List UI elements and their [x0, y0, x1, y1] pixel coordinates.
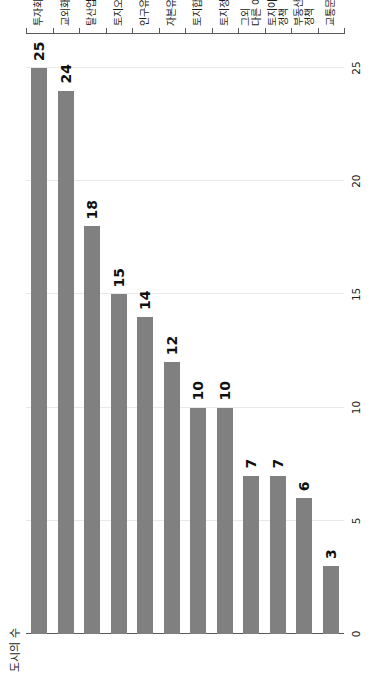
category-tick [185, 28, 186, 34]
category-label: 그외다른 이유 [240, 0, 262, 26]
bar-value-label: 14 [137, 291, 153, 310]
category-label: 토지합병 [193, 0, 204, 26]
value-tick-label: 15 [350, 288, 362, 301]
bar [190, 408, 206, 634]
value-tick-label: 25 [350, 61, 362, 74]
bar-row: 18 [84, 34, 100, 634]
category-label-line: 토지이용 [267, 0, 278, 26]
category-tick [265, 28, 266, 34]
bar-row: 7 [270, 34, 286, 634]
category-label-line: 다른 이유 [251, 0, 262, 26]
bar-row: 14 [137, 34, 153, 634]
value-axis: 0510152025 [344, 34, 374, 634]
category-tick [344, 28, 345, 34]
value-tick-label: 10 [350, 401, 362, 414]
bar-row: 3 [323, 34, 339, 634]
value-tick-label: 0 [350, 631, 362, 638]
category-tick [212, 28, 213, 34]
bar-row: 25 [31, 34, 47, 634]
category-label: 투자회수 [34, 0, 45, 26]
bar [58, 91, 74, 634]
bar-value-label: 6 [296, 481, 312, 491]
bar-row: 7 [243, 34, 259, 634]
category-label-line: 자본유입 [166, 0, 177, 26]
category-tick [318, 28, 319, 34]
bar-value-label: 10 [190, 381, 206, 400]
bar-value-label: 24 [58, 64, 74, 83]
bar [296, 498, 312, 634]
bar-value-label: 7 [270, 459, 286, 469]
bar-row: 15 [111, 34, 127, 634]
bar [270, 476, 286, 634]
bar-row: 6 [296, 34, 312, 634]
category-label: 토지이용정책 [267, 0, 289, 26]
category-label: 토지정형화 [219, 0, 230, 26]
value-axis-title: 도시의 수 [6, 628, 22, 673]
category-label: 탈산업화 [87, 0, 98, 26]
bar [243, 476, 259, 634]
category-tick [132, 28, 133, 34]
category-label-line: 토지합병 [193, 0, 204, 26]
bar-value-label: 18 [84, 200, 100, 219]
bar-value-label: 25 [31, 41, 47, 60]
bar-value-label: 12 [164, 336, 180, 355]
category-label-line: 토지정형화 [219, 0, 230, 26]
bar-value-label: 3 [323, 549, 339, 559]
category-tick [106, 28, 107, 34]
bar-row: 10 [190, 34, 206, 634]
category-label: 자본유입 [166, 0, 177, 26]
category-label: 인구유출 [140, 0, 151, 26]
plot-area: 25241815141210107763 [26, 34, 344, 634]
bar-row: 12 [164, 34, 180, 634]
category-label-line: 교외화 [60, 0, 71, 26]
category-label: 토지오염 [113, 0, 124, 26]
bar [217, 408, 233, 634]
category-label-line: 그외 [240, 8, 251, 26]
bar-chart-figure: 도시의 수 25241815141210107763 0510152025 투자… [0, 0, 386, 680]
category-tick [291, 28, 292, 34]
bar [164, 362, 180, 634]
category-label-line: 토지오염 [113, 0, 124, 26]
category-label: 부동산세정책 [293, 0, 315, 26]
category-label: 교통문제 [325, 0, 336, 26]
category-tick [53, 28, 54, 34]
bar-value-label: 7 [243, 459, 259, 469]
category-label-line: 교통문제 [325, 0, 336, 26]
rotated-chart-stage: 도시의 수 25241815141210107763 0510152025 투자… [0, 0, 386, 680]
bar [323, 566, 339, 634]
bar [84, 226, 100, 634]
category-label-line: 탈산업화 [87, 0, 98, 26]
bar-row: 10 [217, 34, 233, 634]
category-label: 교외화 [60, 0, 71, 26]
category-label-line: 정책 [278, 0, 289, 26]
bar-value-label: 10 [217, 381, 233, 400]
category-label-line: 정책 [304, 0, 315, 26]
bar-value-label: 15 [111, 268, 127, 287]
bar [137, 317, 153, 634]
category-tick [79, 28, 80, 34]
category-label-line: 부동산세 [293, 0, 304, 26]
bar [31, 68, 47, 634]
category-label-line: 인구유출 [140, 0, 151, 26]
bar [111, 294, 127, 634]
category-tick [159, 28, 160, 34]
bar-row: 24 [58, 34, 74, 634]
category-label-line: 투자회수 [34, 0, 45, 26]
category-tick [238, 28, 239, 34]
category-tick [26, 28, 27, 34]
value-tick-label: 20 [350, 174, 362, 187]
value-tick-label: 5 [350, 517, 362, 524]
